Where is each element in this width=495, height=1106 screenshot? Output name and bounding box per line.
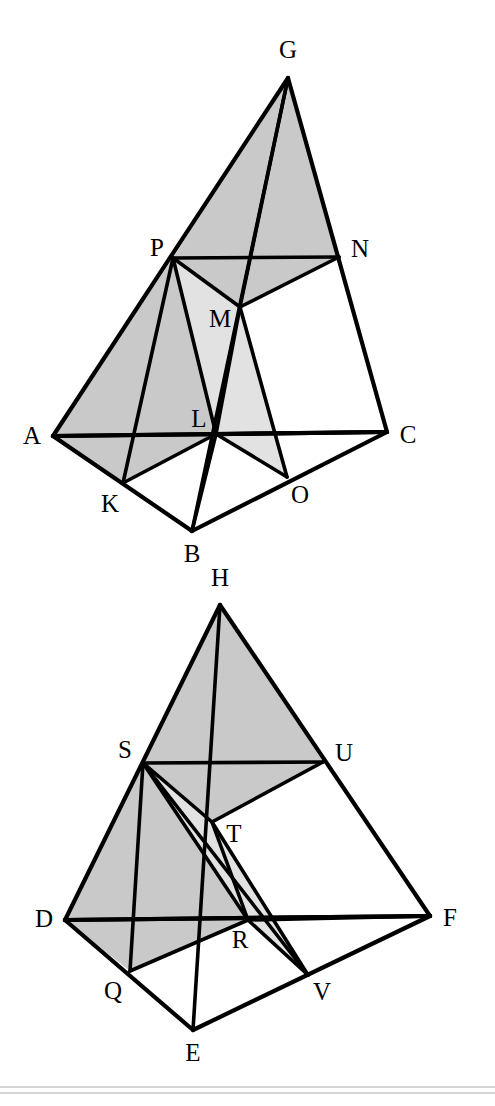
upper-tetrahedron-label-N: N bbox=[351, 235, 369, 262]
upper-tetrahedron-label-K: K bbox=[101, 490, 119, 517]
geometry-figure: GPNMALCKOBHSUTDFRQVE bbox=[0, 0, 495, 1106]
upper-tetrahedron-edge-PN bbox=[173, 257, 339, 258]
upper-tetrahedron-label-O: O bbox=[291, 481, 309, 508]
upper-tetrahedron-label-A: A bbox=[23, 422, 41, 449]
lower-tetrahedron-label-F: F bbox=[443, 904, 457, 931]
lower-tetrahedron-label-E: E bbox=[185, 1039, 200, 1066]
lower-tetrahedron-label-U: U bbox=[335, 739, 353, 766]
lower-tetrahedron: HSUTDFRQVE bbox=[35, 564, 457, 1066]
lower-tetrahedron-edge-SU bbox=[143, 762, 323, 763]
upper-tetrahedron: GPNMALCKOB bbox=[23, 36, 416, 567]
upper-tetrahedron-label-G: G bbox=[279, 36, 297, 63]
lower-tetrahedron-label-Q: Q bbox=[104, 977, 122, 1004]
lower-tetrahedron-label-D: D bbox=[35, 905, 53, 932]
upper-tetrahedron-label-B: B bbox=[184, 540, 201, 567]
lower-tetrahedron-label-R: R bbox=[232, 926, 249, 953]
lower-tetrahedron-label-T: T bbox=[226, 820, 241, 847]
upper-tetrahedron-label-M: M bbox=[209, 305, 231, 332]
upper-tetrahedron-label-P: P bbox=[150, 234, 164, 261]
lower-tetrahedron-label-V: V bbox=[313, 978, 331, 1005]
upper-tetrahedron-label-L: L bbox=[191, 405, 206, 432]
upper-tetrahedron-label-C: C bbox=[400, 421, 417, 448]
figure-root: GPNMALCKOBHSUTDFRQVE bbox=[0, 36, 495, 1093]
lower-tetrahedron-label-S: S bbox=[118, 736, 132, 763]
figure-page: GPNMALCKOBHSUTDFRQVE bbox=[0, 0, 495, 1106]
lower-tetrahedron-label-H: H bbox=[211, 564, 229, 591]
